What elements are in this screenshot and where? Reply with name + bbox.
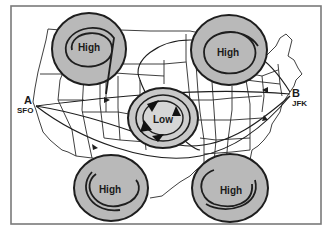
high-label-nw: High (78, 43, 100, 53)
origin-code: SFO (17, 107, 33, 115)
origin-letter: A (24, 95, 32, 106)
high-label-se: High (220, 186, 242, 196)
destination-code: JFK (292, 100, 307, 108)
high-label-ne: High (217, 48, 239, 58)
destination-letter: B (292, 88, 300, 99)
high-label-sw: High (99, 185, 121, 195)
low-label: Low (153, 115, 173, 125)
